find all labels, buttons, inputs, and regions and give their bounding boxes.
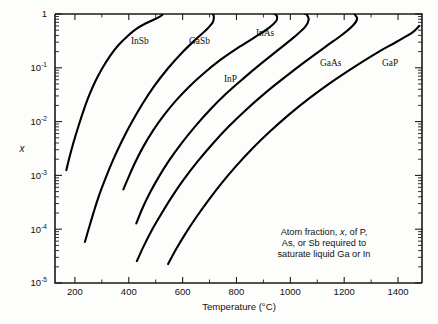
annotation-line: saturate liquid Ga or In bbox=[278, 249, 371, 259]
y-tick-label: 10-2 bbox=[31, 115, 48, 127]
y-axis-tick-labels: 110-110-210-310-410-5 bbox=[31, 8, 48, 288]
x-tick-label: 800 bbox=[229, 286, 245, 297]
x-tick-label: 1000 bbox=[280, 286, 301, 297]
x-tick-label: 400 bbox=[121, 286, 137, 297]
annotation-line: As, or Sb required to bbox=[282, 238, 366, 248]
annotation-line: Atom fraction, x, of P, bbox=[281, 227, 368, 237]
series-label-inp: InP bbox=[224, 74, 237, 84]
x-tick-label: 1400 bbox=[387, 286, 408, 297]
curve-gaas bbox=[137, 14, 357, 261]
series-label-gap: GaP bbox=[382, 58, 398, 68]
y-tick-label: 1 bbox=[42, 8, 47, 19]
solubility-chart: 200400600800100012001400 110-110-210-310… bbox=[0, 0, 438, 324]
y-tick-label: 10-4 bbox=[31, 223, 48, 235]
series-label-inas: InAs bbox=[256, 28, 275, 38]
series-label-gaas: GaAs bbox=[320, 58, 342, 68]
series-label-gasb: GaSb bbox=[189, 36, 210, 46]
x-tick-label: 200 bbox=[67, 286, 83, 297]
x-axis-title: Temperature (°C) bbox=[202, 301, 276, 312]
y-axis-title: x bbox=[19, 143, 26, 154]
y-tick-label: 10-3 bbox=[31, 169, 48, 181]
x-axis-tick-labels: 200400600800100012001400 bbox=[67, 286, 409, 297]
y-tick-label: 10-5 bbox=[31, 276, 48, 288]
x-tick-label: 1200 bbox=[334, 286, 355, 297]
series-label-group: InSbGaSbInAsInPGaAsGaP bbox=[131, 28, 398, 84]
series-label-insb: InSb bbox=[131, 36, 149, 46]
annotation-block: Atom fraction, x, of P,As, or Sb require… bbox=[278, 227, 371, 259]
figure-canvas: 200400600800100012001400 110-110-210-310… bbox=[0, 0, 438, 324]
x-tick-label: 600 bbox=[175, 286, 191, 297]
y-tick-label: 10-1 bbox=[31, 61, 48, 73]
